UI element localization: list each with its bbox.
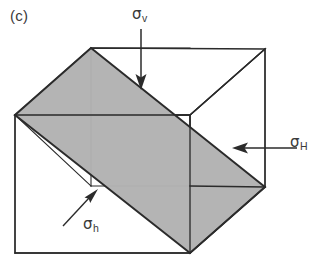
sigma-v-arrow	[136, 29, 147, 90]
stress-block-svg	[0, 0, 313, 269]
panel-label: (c)	[10, 7, 28, 24]
sigma-v-subscript: v	[142, 12, 147, 24]
sigma-h-symbol: σ	[83, 215, 93, 233]
sigma-H-symbol: σ	[290, 133, 300, 151]
label-sigma-v: σv	[132, 6, 147, 23]
edge-right-top	[190, 49, 265, 115]
sigma-h-subscript: h	[93, 222, 99, 234]
figure-container: (c) σv σH σh	[0, 0, 313, 269]
label-sigma-H: σH	[290, 134, 308, 151]
sigma-v-symbol: σ	[132, 5, 142, 23]
label-sigma-h: σh	[83, 216, 99, 233]
sigma-H-subscript: H	[300, 140, 308, 152]
